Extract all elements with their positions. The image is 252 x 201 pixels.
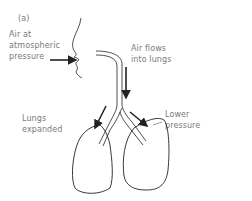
face-profile-icon	[73, 18, 82, 78]
airway-outer-icon	[96, 51, 146, 141]
left-lung-icon	[72, 125, 112, 193]
leader-line-lower-pressure	[153, 122, 162, 125]
respiratory-diagram	[0, 0, 252, 201]
airway-inner-icon	[96, 55, 117, 144]
bronchus-left-icon	[103, 112, 120, 146]
arrow-into-left-lung-icon	[95, 106, 106, 128]
arrow-into-right-lung-icon	[130, 112, 147, 126]
